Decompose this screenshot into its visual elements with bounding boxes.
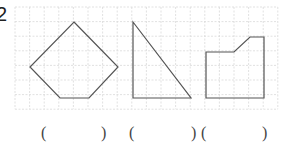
answer-blank-3-open: ( [201,124,206,142]
grid-lines [15,7,278,109]
answer-blank-2-close: ) [191,124,196,142]
answer-blank-1-close: ) [101,124,106,142]
answer-blank-2-open: ( [129,124,134,142]
shapes [30,22,264,98]
answer-blank-3-close: ) [262,124,267,142]
notched-pentagon-shape [206,37,264,98]
pentagon-shape [30,22,118,98]
right-triangle-shape [133,22,191,98]
answer-blank-1-open: ( [41,124,46,142]
